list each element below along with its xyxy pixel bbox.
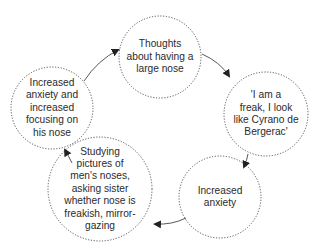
node-freak: 'I am a freak, I look like Cyrano de Ber…: [224, 72, 308, 156]
node-anxiety-focusing: Increased anxiety and increased focusing…: [11, 67, 93, 149]
node-increased-anxiety: Increased anxiety: [179, 156, 261, 238]
cycle-diagram: Thoughts about having a large nose 'I am…: [0, 0, 313, 248]
arrow-focusing-to-thoughts: [84, 50, 118, 81]
node-label: Increased anxiety: [198, 185, 243, 210]
node-studying: Studying pictures of men's noses, asking…: [48, 137, 152, 241]
node-label: Thoughts about having a large nose: [127, 38, 194, 75]
arrow-thoughts-to-freak: [202, 54, 229, 76]
arrow-anxiety-to-studying: [155, 218, 186, 224]
node-label: 'I am a freak, I look like Cyrano de Ber…: [233, 89, 298, 139]
node-label: Studying pictures of men's noses, asking…: [64, 146, 135, 233]
node-label: Increased anxiety and increased focusing…: [26, 77, 78, 139]
node-thoughts: Thoughts about having a large nose: [119, 16, 201, 98]
